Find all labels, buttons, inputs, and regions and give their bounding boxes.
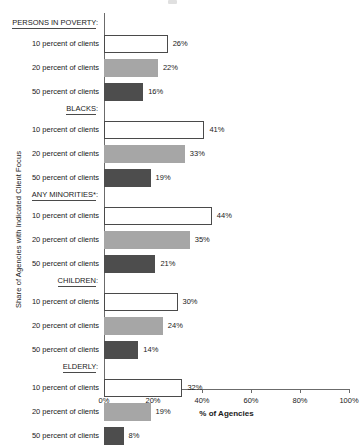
bar xyxy=(104,59,158,77)
bar-category-label: 20 percent of clients xyxy=(0,321,99,330)
bar xyxy=(104,207,212,225)
bar-row: 50 percent of clients8% xyxy=(0,424,360,448)
bar-row: 50 percent of clients14% xyxy=(0,338,360,362)
bar-value-label: 22% xyxy=(163,63,178,72)
bar-row: 20 percent of clients19% xyxy=(0,400,360,424)
bar-row: 10 percent of clients30% xyxy=(0,290,360,314)
bar-value-label: 16% xyxy=(148,87,163,96)
bar xyxy=(104,403,151,421)
bar xyxy=(104,35,168,53)
bar-value-label: 32% xyxy=(187,383,202,392)
group-header-label: ELDERLY xyxy=(63,362,96,373)
group-header: BLACKS: xyxy=(0,104,98,118)
bar-row: 20 percent of clients24% xyxy=(0,314,360,338)
bar-row: 10 percent of clients26% xyxy=(0,32,360,56)
bar-row: 20 percent of clients33% xyxy=(0,142,360,166)
bar-row: 50 percent of clients16% xyxy=(0,80,360,104)
bar-value-label: 19% xyxy=(156,173,171,182)
bar-category-label: 10 percent of clients xyxy=(0,383,99,392)
bar xyxy=(104,427,124,445)
bar-category-label: 20 percent of clients xyxy=(0,235,99,244)
group-header-label: ANY MINORITIES* xyxy=(32,190,96,201)
bar xyxy=(104,293,178,311)
bar-row: 10 percent of clients32% xyxy=(0,376,360,400)
bar xyxy=(104,169,151,187)
group-header-label: CHILDREN xyxy=(58,276,96,287)
group-header: ELDERLY: xyxy=(0,362,98,376)
bar-group: CHILDREN:10 percent of clients30%20 perc… xyxy=(0,276,360,362)
bar-row: 10 percent of clients44% xyxy=(0,204,360,228)
bar xyxy=(104,379,182,397)
bar xyxy=(104,341,138,359)
group-header: CHILDREN: xyxy=(0,276,98,290)
bar xyxy=(104,83,143,101)
bar-category-label: 20 percent of clients xyxy=(0,149,99,158)
bar-group: ANY MINORITIES*:10 percent of clients44%… xyxy=(0,190,360,276)
bar-category-label: 50 percent of clients xyxy=(0,87,99,96)
bar-value-label: 19% xyxy=(156,407,171,416)
group-header-label: BLACKS xyxy=(66,104,96,115)
bar-row: 20 percent of clients35% xyxy=(0,228,360,252)
bar-category-label: 20 percent of clients xyxy=(0,407,99,416)
bar-value-label: 41% xyxy=(209,125,224,134)
clipped-title-artifact xyxy=(168,0,177,4)
group-header: PERSONS IN POVERTY: xyxy=(0,18,98,32)
bar-group: BLACKS:10 percent of clients41%20 percen… xyxy=(0,104,360,190)
bar-value-label: 30% xyxy=(183,297,198,306)
bar-group: PERSONS IN POVERTY:10 percent of clients… xyxy=(0,18,360,104)
group-header: ANY MINORITIES*: xyxy=(0,190,98,204)
bar-category-label: 20 percent of clients xyxy=(0,63,99,72)
bar-value-label: 26% xyxy=(173,39,188,48)
bar-category-label: 50 percent of clients xyxy=(0,259,99,268)
bar-category-label: 50 percent of clients xyxy=(0,431,99,440)
bar-value-label: 8% xyxy=(129,431,140,440)
bar-category-label: 10 percent of clients xyxy=(0,297,99,306)
bar xyxy=(104,317,163,335)
bar-category-label: 50 percent of clients xyxy=(0,345,99,354)
bar-category-label: 10 percent of clients xyxy=(0,211,99,220)
bar xyxy=(104,145,185,163)
bar-row: 20 percent of clients22% xyxy=(0,56,360,80)
bar-value-label: 21% xyxy=(160,259,175,268)
bar-row: 50 percent of clients19% xyxy=(0,166,360,190)
group-header-label: PERSONS IN POVERTY xyxy=(12,18,96,29)
bar-group: ELDERLY:10 percent of clients32%20 perce… xyxy=(0,362,360,448)
bar xyxy=(104,255,155,273)
bar-value-label: 14% xyxy=(143,345,158,354)
bar-row: 50 percent of clients21% xyxy=(0,252,360,276)
bar xyxy=(104,231,190,249)
bar-category-label: 10 percent of clients xyxy=(0,125,99,134)
bar-value-label: 35% xyxy=(195,235,210,244)
bar-value-label: 33% xyxy=(190,149,205,158)
bar xyxy=(104,121,204,139)
bar-value-label: 44% xyxy=(217,211,232,220)
bar-row: 10 percent of clients41% xyxy=(0,118,360,142)
bar-category-label: 50 percent of clients xyxy=(0,173,99,182)
bar-category-label: 10 percent of clients xyxy=(0,39,99,48)
bar-value-label: 24% xyxy=(168,321,183,330)
